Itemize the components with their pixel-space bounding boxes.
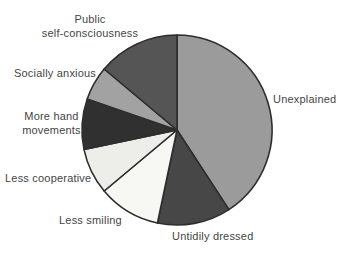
slice-label-socially-anxious: Socially anxious (14, 66, 96, 80)
slice-label-unexplained: Unexplained (273, 92, 336, 106)
slice-label-more-hand-movements: More hand movements (14, 109, 89, 137)
slice-label-untidily-dressed: Untidily dressed (172, 229, 253, 243)
slice-label-less-cooperative: Less cooperative (5, 171, 91, 185)
slice-label-less-smiling: Less smiling (59, 213, 122, 227)
pie-chart-figure: Public self-consciousness Socially anxio… (0, 0, 347, 255)
slice-label-public-self-consciousness: Public self-consciousness (35, 12, 145, 40)
